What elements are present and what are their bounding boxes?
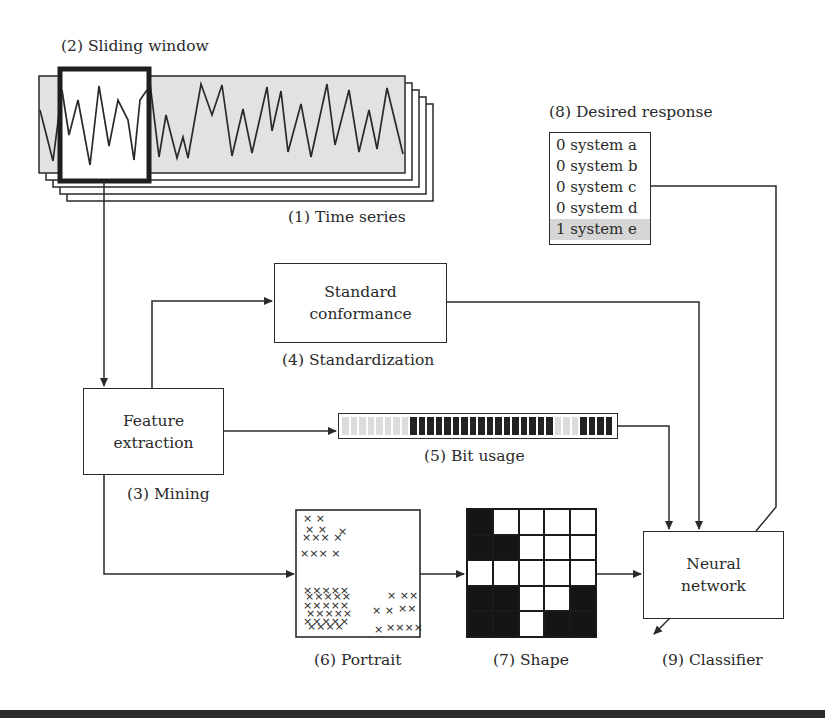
standard-conformance-box[interactable]: Standard conformance: [274, 263, 447, 343]
label-sliding-window: (2) Sliding window: [61, 37, 209, 55]
shape-cell: [544, 560, 570, 586]
bit-cell: [589, 417, 596, 435]
shape-cell: [493, 611, 519, 637]
svg-text:××××: ××××: [386, 621, 423, 634]
bit-cell: [376, 417, 383, 435]
shape-cell: [467, 560, 493, 586]
bit-cell: [436, 417, 443, 435]
svg-text:×: ×: [374, 623, 383, 636]
bit-cell: [461, 417, 468, 435]
standard-conformance-line2: conformance: [309, 303, 411, 325]
desired-response-row-e: 1 system e: [550, 219, 650, 240]
bit-cell: [368, 417, 375, 435]
bit-cell: [419, 417, 426, 435]
sliding-window-frame[interactable]: [60, 69, 149, 181]
bit-cell: [453, 417, 460, 435]
bit-cell: [521, 417, 528, 435]
label-bit-usage: (5) Bit usage: [424, 447, 525, 465]
bit-cell: [529, 417, 536, 435]
bit-cell: [385, 417, 392, 435]
shape-cell: [544, 509, 570, 535]
bit-cell: [512, 417, 519, 435]
label-desired-response: (8) Desired response: [549, 103, 713, 121]
bit-cell: [402, 417, 409, 435]
shape-cell: [544, 586, 570, 612]
bit-cell: [580, 417, 587, 435]
shape-cell: [519, 535, 545, 561]
bit-cell: [546, 417, 553, 435]
label-portrait: (6) Portrait: [314, 651, 402, 669]
desired-response-table: 0 system a 0 system b 0 system c 0 syste…: [549, 132, 651, 245]
shape-cell: [570, 535, 596, 561]
svg-text:××: ××: [398, 602, 416, 615]
bit-cell: [487, 417, 494, 435]
desired-response-row-a: 0 system a: [550, 135, 650, 156]
bit-usage-bar: [338, 413, 618, 439]
shape-cell: [570, 586, 596, 612]
shape-cell: [467, 586, 493, 612]
bit-cell: [572, 417, 579, 435]
bit-cell: [470, 417, 477, 435]
shape-cell: [519, 560, 545, 586]
shape-cell: [493, 560, 519, 586]
label-mining: (3) Mining: [127, 485, 210, 503]
label-shape: (7) Shape: [493, 651, 569, 669]
shape-cell: [519, 611, 545, 637]
bit-cell: [606, 417, 613, 435]
shape-cell: [519, 509, 545, 535]
desired-response-row-d: 0 system d: [550, 198, 650, 219]
label-time-series: (1) Time series: [288, 208, 406, 226]
arrow-bits-to-nn: [618, 426, 669, 529]
bit-cell: [342, 417, 349, 435]
bit-cell: [351, 417, 358, 435]
standard-conformance-line1: Standard: [324, 281, 397, 303]
shape-cell: [544, 535, 570, 561]
shape-grid: [466, 508, 597, 638]
svg-text:×: ×: [338, 525, 347, 538]
bit-cell: [597, 417, 604, 435]
bit-cell: [555, 417, 562, 435]
bottom-rule: [0, 710, 825, 718]
svg-text:××× ×: ××× ×: [300, 547, 340, 560]
bit-cell: [495, 417, 502, 435]
bit-cell: [359, 417, 366, 435]
neural-network-line1: Neural: [686, 553, 740, 575]
bit-cell: [410, 417, 417, 435]
bit-cell: [478, 417, 485, 435]
bit-cell: [538, 417, 545, 435]
bit-cell: [444, 417, 451, 435]
bit-cell: [504, 417, 511, 435]
arrow-feature-to-standard: [152, 301, 272, 388]
shape-cell: [493, 535, 519, 561]
shape-cell: [467, 535, 493, 561]
bit-cell: [393, 417, 400, 435]
svg-text:××× ×: ××× ×: [302, 531, 342, 544]
neural-network-line2: network: [681, 575, 746, 597]
shape-cell: [570, 560, 596, 586]
shape-cell: [570, 611, 596, 637]
label-classifier: (9) Classifier: [662, 651, 763, 669]
shape-cell: [493, 586, 519, 612]
feature-extraction-box[interactable]: Feature extraction: [83, 388, 224, 475]
neural-network-box[interactable]: Neural network: [643, 531, 784, 619]
svg-text:× ×: × ×: [372, 604, 394, 617]
shape-cell: [467, 611, 493, 637]
feature-extraction-line1: Feature: [123, 410, 184, 432]
label-standardization: (4) Standardization: [282, 351, 434, 369]
arrow-nn-output: [654, 618, 670, 634]
shape-cell: [493, 509, 519, 535]
shape-cell: [544, 611, 570, 637]
bit-cell: [563, 417, 570, 435]
feature-extraction-line2: extraction: [114, 432, 194, 454]
shape-cell: [519, 586, 545, 612]
shape-cell: [467, 509, 493, 535]
bit-cell: [427, 417, 434, 435]
desired-response-row-c: 0 system c: [550, 177, 650, 198]
svg-text:× ××: × ××: [387, 589, 418, 602]
desired-response-row-b: 0 system b: [550, 156, 650, 177]
shape-cell: [570, 509, 596, 535]
svg-text:××××: ××××: [307, 620, 344, 633]
